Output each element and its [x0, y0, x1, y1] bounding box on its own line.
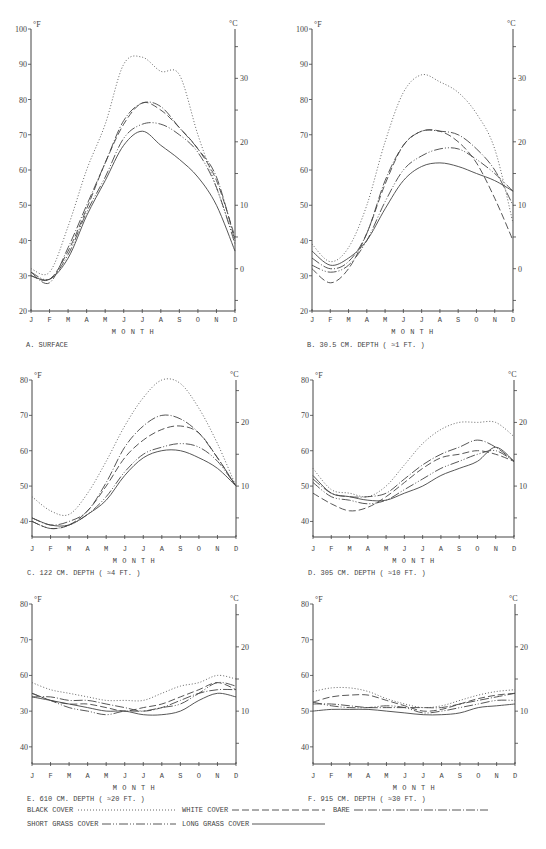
x-tick-label: M: [348, 772, 352, 780]
series-line-long-grass-cover: [313, 447, 514, 501]
chart-panel-d: 4050607080°F°C1020JFMAMJJASONDM O N T HD…: [301, 370, 527, 577]
y-tick-label: 60: [20, 671, 28, 680]
x-tick-label: M: [66, 316, 70, 324]
x-tick-label: S: [178, 772, 182, 780]
x-tick-label: J: [421, 545, 425, 553]
x-tick-label: F: [328, 316, 332, 324]
x-tick-label: M: [347, 545, 351, 553]
legend-item-long-grass-cover: LONG GRASS COVER: [182, 820, 325, 828]
y-tick-label: 20: [19, 307, 27, 316]
y-tick-label: 30: [19, 272, 27, 281]
x-axis-title: M O N T H: [112, 328, 154, 336]
y-right-tick-label: 30: [240, 74, 248, 83]
x-tick-label: J: [310, 316, 314, 324]
x-tick-label: D: [511, 316, 515, 324]
y-right-tick-label: 0: [518, 265, 522, 274]
chart-panel-f: 4050607080°F°C1020JFMAMJJASONDM O N T HF…: [301, 594, 528, 803]
x-tick-label: S: [458, 772, 462, 780]
x-tick-label: F: [329, 772, 333, 780]
y-right-tick-label: 10: [520, 707, 528, 716]
x-tick-label: F: [48, 545, 52, 553]
y-right-tick-label: 20: [519, 418, 527, 427]
x-tick-label: N: [215, 545, 219, 553]
x-tick-label: J: [30, 772, 34, 780]
x-tick-label: M: [67, 545, 71, 553]
legend-item-white-cover: WHITE COVER: [182, 806, 325, 814]
series-line-short-grass-cover: [31, 123, 235, 280]
x-tick-label: A: [366, 545, 371, 553]
y-tick-label: 30: [300, 272, 308, 281]
x-tick-label: A: [438, 316, 443, 324]
x-tick-label: N: [215, 772, 219, 780]
series-line-bare: [32, 415, 236, 525]
x-tick-label: D: [513, 772, 517, 780]
y-tick-label: 70: [301, 411, 309, 420]
unit-celsius-label: °C: [507, 19, 516, 28]
x-tick-label: M: [384, 772, 388, 780]
y-tick-label: 70: [20, 636, 28, 645]
series-line-black-cover: [31, 56, 235, 275]
x-tick-label: J: [311, 772, 315, 780]
x-tick-label: A: [86, 772, 91, 780]
series-line-long-grass-cover: [32, 693, 236, 715]
y-tick-label: 50: [20, 482, 28, 491]
x-tick-label: D: [512, 545, 516, 553]
x-tick-label: M: [103, 316, 107, 324]
x-axis-title: M O N T H: [393, 784, 435, 792]
x-axis-title: M O N T H: [113, 784, 155, 792]
x-tick-label: J: [421, 772, 425, 780]
x-tick-label: D: [234, 772, 238, 780]
chart-panel-a: 2030405060708090100°F°C0102030JFMAMJJASO…: [15, 19, 248, 349]
y-tick-label: 60: [19, 166, 27, 175]
y-tick-label: 100: [296, 25, 308, 34]
y-tick-label: 80: [301, 600, 309, 609]
legend-item-short-grass-cover: SHORT GRASS COVER: [27, 820, 176, 828]
panel-caption: F. 915 CM. DEPTH ( ≈30 FT. ): [308, 795, 426, 803]
y-tick-label: 40: [20, 517, 28, 526]
y-tick-label: 60: [301, 447, 309, 456]
x-tick-label: J: [311, 545, 315, 553]
y-tick-label: 90: [300, 60, 308, 69]
y-tick-label: 40: [19, 237, 27, 246]
legend: BLACK COVERWHITE COVERBARESHORT GRASS CO…: [27, 806, 488, 828]
legend-item-bare: BARE: [333, 806, 488, 814]
soil-temperature-figure: 2030405060708090100°F°C0102030JFMAMJJASO…: [0, 0, 546, 849]
unit-fahrenheit-label: °F: [314, 20, 322, 29]
y-tick-label: 80: [300, 96, 308, 105]
y-tick-label: 50: [19, 201, 27, 210]
y-tick-label: 80: [301, 376, 309, 385]
y-right-tick-label: 0: [240, 265, 244, 274]
x-tick-label: A: [365, 316, 370, 324]
legend-label: LONG GRASS COVER: [182, 820, 250, 828]
x-tick-label: A: [160, 772, 165, 780]
y-tick-label: 70: [19, 131, 27, 140]
chart-panels: 2030405060708090100°F°C0102030JFMAMJJASO…: [15, 19, 528, 803]
x-tick-label: A: [85, 316, 90, 324]
y-right-tick-label: 20: [518, 138, 526, 147]
y-tick-label: 80: [20, 600, 28, 609]
x-tick-label: O: [197, 545, 201, 553]
x-tick-label: M: [383, 316, 387, 324]
x-tick-label: M: [384, 545, 388, 553]
x-tick-label: N: [214, 316, 218, 324]
y-tick-label: 70: [20, 411, 28, 420]
x-axis-title: M O N T H: [113, 557, 155, 565]
series-line-black-cover: [32, 379, 236, 516]
y-right-tick-label: 10: [240, 201, 248, 210]
unit-fahrenheit-label: °F: [34, 595, 42, 604]
series-line-bare: [313, 440, 514, 497]
legend-label: BARE: [333, 806, 350, 814]
y-right-tick-label: 20: [520, 643, 528, 652]
x-tick-label: D: [233, 316, 237, 324]
series-line-long-grass-cover: [32, 450, 236, 526]
unit-celsius-label: °C: [508, 370, 517, 379]
x-tick-label: J: [141, 545, 145, 553]
x-tick-label: J: [29, 316, 33, 324]
unit-celsius-label: °C: [230, 370, 239, 379]
series-line-white-cover: [313, 451, 514, 511]
x-tick-label: S: [177, 316, 181, 324]
x-tick-label: M: [104, 545, 108, 553]
panel-caption: D. 305 CM. DEPTH ( ≈10 FT. ): [308, 569, 426, 577]
y-right-tick-label: 30: [518, 74, 526, 83]
y-right-tick-label: 20: [241, 418, 249, 427]
